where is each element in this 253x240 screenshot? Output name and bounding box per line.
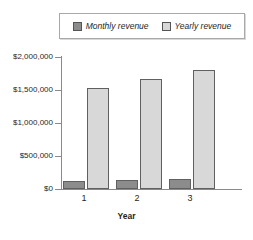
legend-label-monthly: Monthly revenue — [86, 22, 149, 31]
x-category-label-1: 1 — [69, 194, 99, 203]
bar-chart: Monthly revenue Yearly revenue $2,000,00… — [0, 0, 253, 240]
y-tick-label-2000000: $2,000,000 — [0, 53, 53, 61]
y-tick-mark — [55, 189, 61, 190]
bar-yearly-2 — [140, 79, 162, 189]
bar-yearly-1 — [87, 88, 109, 189]
y-tick-label-0: $0 — [0, 185, 53, 193]
x-category-label-3: 3 — [175, 194, 205, 203]
x-axis-title: Year — [0, 212, 253, 221]
legend-swatch-icon-yearly — [162, 22, 171, 31]
chart-legend: Monthly revenue Yearly revenue — [59, 13, 245, 39]
x-axis-line — [55, 189, 242, 190]
legend-label-yearly: Yearly revenue — [175, 22, 232, 31]
y-tick-label-1500000: $1,500,000 — [0, 86, 53, 94]
legend-item-yearly-revenue: Yearly revenue — [162, 22, 232, 31]
bar-yearly-3 — [193, 70, 215, 189]
bar-monthly-3 — [169, 179, 191, 189]
y-tick-label-1000000: $1,000,000 — [0, 119, 53, 127]
legend-swatch-icon-monthly — [73, 22, 82, 31]
bar-monthly-1 — [63, 181, 85, 189]
legend-item-monthly-revenue: Monthly revenue — [73, 22, 149, 31]
y-axis-line — [61, 56, 62, 190]
y-tick-mark — [55, 90, 61, 91]
y-tick-mark — [55, 57, 61, 58]
y-tick-mark — [55, 156, 61, 157]
y-tick-mark — [55, 123, 61, 124]
y-tick-label-500000: $500,000 — [0, 152, 53, 160]
bar-monthly-2 — [116, 180, 138, 189]
x-category-label-2: 2 — [122, 194, 152, 203]
